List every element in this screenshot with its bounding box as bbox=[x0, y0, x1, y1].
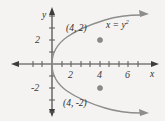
curve-equation-exponent: 2 bbox=[126, 18, 129, 25]
point-marker-4-2 bbox=[97, 37, 102, 42]
point-label-4-2: (4, 2) bbox=[66, 24, 87, 34]
x-axis-label: x bbox=[150, 70, 154, 80]
curve-equation-label: x = y2 bbox=[106, 19, 129, 31]
x-tick-label-6: 6 bbox=[125, 70, 130, 80]
lower-branch-arrow-icon bbox=[139, 109, 149, 116]
y-axis-bottom-arrow-icon bbox=[49, 109, 55, 117]
y-tick-label-2: 2 bbox=[35, 35, 40, 45]
x-axis-left-arrow-icon bbox=[11, 61, 19, 67]
x-tick-label-4: 4 bbox=[97, 70, 102, 80]
y-tick-label-minus-2: -2 bbox=[31, 83, 39, 93]
y-axis-top-arrow-icon bbox=[49, 7, 55, 15]
curve-equation-base: x = y bbox=[106, 20, 126, 30]
parabola-figure: x y 2 4 6 2 -2 (4, 2) (4, -2) x = y2 bbox=[0, 0, 165, 121]
point-label-4-minus-2: (4, -2) bbox=[63, 99, 87, 109]
upper-branch-arrow-icon bbox=[139, 10, 149, 17]
x-tick-label-2: 2 bbox=[68, 70, 73, 80]
point-marker-4-minus-2 bbox=[97, 85, 102, 90]
y-axis-label: y bbox=[42, 11, 46, 21]
x-axis-right-arrow-icon bbox=[151, 61, 159, 67]
